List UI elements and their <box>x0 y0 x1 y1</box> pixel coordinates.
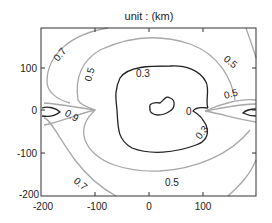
contour-label: 0.7 <box>72 175 90 193</box>
y-tick-label: -100 <box>17 148 37 159</box>
y-tick-labels: 100 0 -100 -200 <box>17 63 39 200</box>
contour-label: 0.5 <box>223 87 240 101</box>
contour-label: 0.9 <box>63 107 81 124</box>
y-tick-label: 0 <box>31 105 37 116</box>
x-tick-labels: -200 -100 0 100 <box>33 201 212 212</box>
contour-label: 0.7 <box>51 45 69 63</box>
x-tick-label: 0 <box>146 201 152 212</box>
x-tick-label: -100 <box>87 201 107 212</box>
y-tick-label: 100 <box>20 63 37 74</box>
contour-chart: unit : (km) 0.7 0.5 0.3 0.5 0.5 0.9 0 0.… <box>0 0 272 223</box>
y-tick-label: -200 <box>19 189 39 200</box>
contour-label: 0.5 <box>165 177 179 188</box>
x-tick-label: -200 <box>33 201 53 212</box>
contour-label: 0.5 <box>82 66 96 83</box>
x-tick-label: 100 <box>195 201 212 212</box>
contour-label: 0.3 <box>193 123 211 141</box>
contour-label: 0 <box>186 106 192 117</box>
contour-label: 0.3 <box>136 68 150 79</box>
contour-label: 0.5 <box>222 53 240 71</box>
chart-title: unit : (km) <box>125 10 174 22</box>
